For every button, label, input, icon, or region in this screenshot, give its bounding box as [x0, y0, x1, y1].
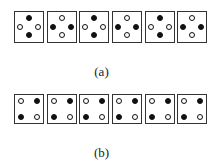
- dot-cell: [47, 11, 77, 43]
- hollow-dot-icon: [18, 98, 24, 104]
- filled-dot-icon: [180, 24, 186, 30]
- filled-dot-icon: [67, 98, 73, 104]
- dot-cell: [14, 94, 44, 124]
- hollow-dot-icon: [67, 114, 73, 120]
- dot-cell: [145, 11, 175, 43]
- filled-dot-icon: [115, 24, 121, 30]
- filled-dot-icon: [91, 15, 97, 21]
- panel-a-label: (a): [0, 64, 213, 80]
- filled-dot-icon: [68, 24, 74, 30]
- hollow-dot-icon: [17, 24, 23, 30]
- hollow-dot-icon: [165, 114, 171, 120]
- dot-cell: [177, 94, 207, 124]
- hollow-dot-icon: [189, 32, 195, 38]
- filled-dot-icon: [116, 114, 122, 120]
- hollow-dot-icon: [82, 24, 88, 30]
- hollow-dot-icon: [35, 24, 41, 30]
- panel-b-row: [14, 94, 210, 124]
- hollow-dot-icon: [197, 114, 203, 120]
- filled-dot-icon: [34, 98, 40, 104]
- dot-cell: [14, 11, 44, 43]
- hollow-dot-icon: [148, 24, 154, 30]
- hollow-dot-icon: [34, 114, 40, 120]
- filled-dot-icon: [91, 32, 97, 38]
- hollow-dot-icon: [59, 32, 65, 38]
- filled-dot-icon: [18, 114, 24, 120]
- hollow-dot-icon: [124, 32, 130, 38]
- filled-dot-icon: [132, 98, 138, 104]
- filled-dot-icon: [133, 24, 139, 30]
- hollow-dot-icon: [59, 15, 65, 21]
- filled-dot-icon: [50, 24, 56, 30]
- dot-cell: [47, 94, 77, 124]
- dot-cell: [145, 94, 175, 124]
- filled-dot-icon: [149, 114, 155, 120]
- filled-dot-icon: [157, 15, 163, 21]
- dot-cell: [177, 11, 207, 43]
- hollow-dot-icon: [166, 24, 172, 30]
- filled-dot-icon: [51, 114, 57, 120]
- filled-dot-icon: [157, 32, 163, 38]
- hollow-dot-icon: [83, 98, 89, 104]
- dot-cell: [79, 94, 109, 124]
- filled-dot-icon: [197, 98, 203, 104]
- dot-cell: [112, 94, 142, 124]
- filled-dot-icon: [165, 98, 171, 104]
- filled-dot-icon: [198, 24, 204, 30]
- hollow-dot-icon: [100, 24, 106, 30]
- dot-cell: [79, 11, 109, 43]
- hollow-dot-icon: [181, 98, 187, 104]
- hollow-dot-icon: [189, 15, 195, 21]
- dot-cell: [112, 11, 142, 43]
- hollow-dot-icon: [116, 98, 122, 104]
- filled-dot-icon: [181, 114, 187, 120]
- hollow-dot-icon: [149, 98, 155, 104]
- hollow-dot-icon: [99, 114, 105, 120]
- hollow-dot-icon: [51, 98, 57, 104]
- hollow-dot-icon: [124, 15, 130, 21]
- filled-dot-icon: [26, 15, 32, 21]
- filled-dot-icon: [83, 114, 89, 120]
- filled-dot-icon: [26, 32, 32, 38]
- filled-dot-icon: [99, 98, 105, 104]
- panel-a-row: [14, 11, 210, 43]
- panel-b-label: (b): [0, 145, 213, 161]
- hollow-dot-icon: [132, 114, 138, 120]
